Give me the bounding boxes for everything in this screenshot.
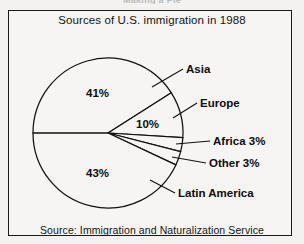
- pie-label-latin-america: Latin America: [178, 187, 254, 199]
- pie-value-latin-america: 43%: [86, 167, 109, 179]
- pie-chart: 41% 10% 43% Asia Europe Africa 3% Other …: [0, 0, 304, 244]
- pie-label-africa: Africa 3%: [213, 135, 265, 147]
- pie-label-europe: Europe: [200, 97, 240, 109]
- figure-root: Making a Pie Sources of U.S. immigration…: [0, 0, 304, 244]
- pie-value-asia: 41%: [86, 87, 109, 99]
- pie-label-other: Other 3%: [209, 157, 260, 169]
- pie-value-europe: 10%: [136, 118, 159, 130]
- pie-label-asia: Asia: [186, 63, 211, 75]
- chart-source-note: Source: Immigration and Naturalization S…: [0, 224, 304, 236]
